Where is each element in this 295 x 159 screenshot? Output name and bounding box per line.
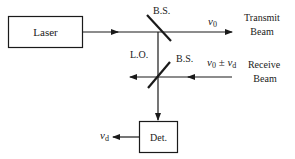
- heterodyne-lidar-diagram: Laser B.S. ν0 Transmit Beam L.O. B.S. ν0…: [0, 0, 295, 159]
- receive-frequency-label: ν0 ± νd: [207, 56, 236, 70]
- detector-box: Det.: [140, 122, 178, 153]
- transmit-beam-label-line2: Beam: [250, 26, 274, 37]
- transmit-frequency-label: ν0: [208, 15, 217, 29]
- laser-label: Laser: [33, 26, 58, 38]
- beam-splitter-receive: [148, 62, 170, 88]
- lo-label: L.O.: [130, 49, 148, 60]
- beam-splitter-transmit: [147, 15, 171, 41]
- transmit-beam-label-line1: Transmit: [244, 12, 280, 23]
- laser-box: Laser: [9, 17, 83, 48]
- output-frequency-label: νd: [100, 129, 109, 143]
- receive-beam-label-line1: Receive: [248, 59, 281, 70]
- bs-receive-label: B.S.: [176, 53, 193, 64]
- detector-label: Det.: [150, 132, 167, 143]
- receive-beam-label-line2: Beam: [253, 73, 277, 84]
- bs-transmit-label: B.S.: [153, 5, 170, 16]
